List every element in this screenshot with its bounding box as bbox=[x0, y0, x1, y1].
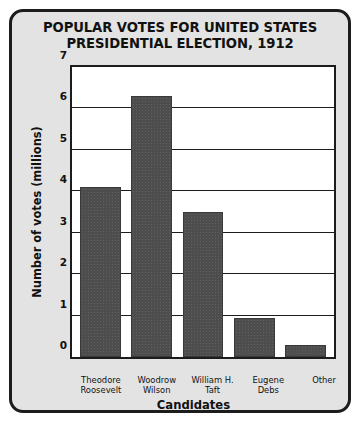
y-axis-tick-label: 1 bbox=[60, 298, 67, 310]
bar-slot bbox=[75, 67, 126, 357]
bar-series bbox=[72, 67, 334, 357]
x-axis-tick-labels: TheodoreRooseveltWoodrowWilsonWilliam H.… bbox=[70, 373, 355, 395]
chart-card: POPULAR VOTES FOR UNITED STATES PRESIDEN… bbox=[9, 9, 351, 413]
plot-area: 01234567 bbox=[70, 65, 336, 359]
bar-slot bbox=[177, 67, 228, 357]
chart-area: 01234567 bbox=[51, 56, 336, 368]
bar-slot bbox=[280, 67, 331, 357]
x-axis-category-label: William H.Taft bbox=[185, 373, 241, 395]
y-axis-tick-label: 2 bbox=[60, 256, 67, 268]
y-axis-tick-label: 7 bbox=[60, 49, 67, 61]
bar bbox=[131, 96, 172, 357]
y-axis-tick-label: 0 bbox=[60, 339, 67, 351]
bar-slot bbox=[229, 67, 280, 357]
bar bbox=[183, 212, 224, 357]
x-axis-category-label: EugeneDebs bbox=[240, 373, 296, 395]
x-axis-category-label-line: William H. bbox=[185, 375, 241, 385]
x-axis-category-label: Other bbox=[296, 373, 352, 395]
x-axis-category-label-line: Wilson bbox=[129, 385, 185, 395]
y-axis-tick-label: 4 bbox=[60, 173, 67, 185]
x-axis-title-label: Candidates bbox=[157, 398, 230, 412]
x-axis-category-label-line: Woodrow bbox=[129, 375, 185, 385]
bar bbox=[234, 318, 275, 357]
x-axis-category-label-line: Roosevelt bbox=[73, 385, 129, 395]
x-axis-category-label: WoodrowWilson bbox=[129, 373, 185, 395]
y-axis-tick-label: 3 bbox=[60, 215, 67, 227]
bar bbox=[285, 345, 326, 357]
chart-title-line-1: POPULAR VOTES FOR UNITED STATES bbox=[12, 20, 348, 36]
y-axis-title-label: Number of votes (millions) bbox=[30, 126, 44, 298]
x-axis-category-label-line: Eugene bbox=[240, 375, 296, 385]
bar-slot bbox=[126, 67, 177, 357]
y-axis-tick-label: 5 bbox=[60, 132, 67, 144]
chart-title: POPULAR VOTES FOR UNITED STATES PRESIDEN… bbox=[12, 20, 348, 51]
x-axis-category-label-line: Taft bbox=[185, 385, 241, 395]
x-axis-category-label-line: Theodore bbox=[73, 375, 129, 385]
y-axis-tick-label: 6 bbox=[60, 90, 67, 102]
x-axis-category-label-line: Debs bbox=[240, 385, 296, 395]
bar bbox=[80, 187, 121, 357]
x-axis-category-label-line: Other bbox=[296, 375, 352, 385]
x-axis-title: Candidates bbox=[51, 398, 336, 412]
y-axis-title: Number of votes (millions) bbox=[26, 56, 48, 368]
x-axis-category-label: TheodoreRoosevelt bbox=[73, 373, 129, 395]
